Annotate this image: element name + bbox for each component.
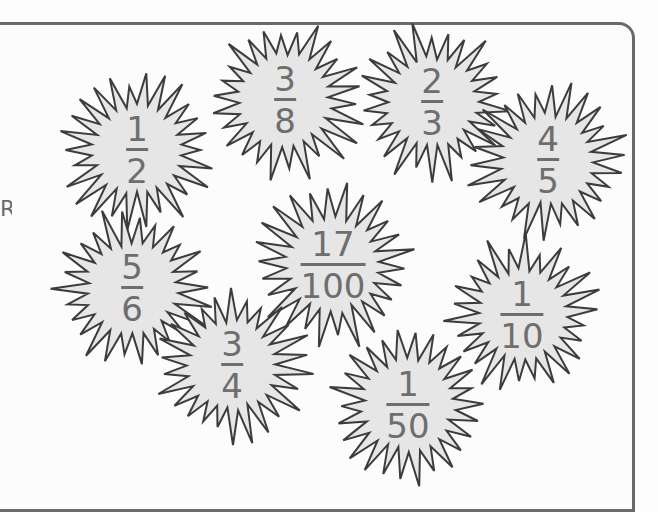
fraction-label: 110: [500, 277, 543, 353]
fraction-label: 45: [537, 122, 559, 198]
fraction-label: 34: [221, 327, 243, 403]
fraction-label: 56: [121, 250, 143, 326]
fraction-label: 12: [126, 112, 148, 188]
fraction-label: 150: [386, 367, 429, 443]
fraction-label: 38: [274, 62, 296, 138]
fraction-label: 23: [421, 64, 443, 140]
fraction-label: 17100: [301, 227, 366, 303]
